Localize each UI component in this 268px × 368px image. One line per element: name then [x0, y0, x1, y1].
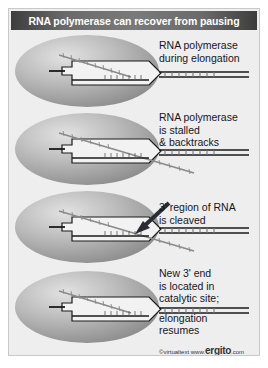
- credit-brand: ergito: [205, 345, 231, 356]
- caption-line: is cleaved: [159, 214, 236, 227]
- caption-line: is stalled: [159, 124, 238, 137]
- caption-line: resumes: [159, 324, 219, 337]
- enzyme-channel: [62, 297, 161, 321]
- caption-line: & backtracks: [159, 136, 238, 149]
- panel-elongation-caption: RNA polymerase during elongation: [159, 39, 240, 64]
- panel-stalled-caption: RNA polymerase is stalled & backtracks: [159, 111, 238, 149]
- dna-duplex-right: [159, 228, 249, 233]
- panel-cleaved: 3' region of RNA is cleaved: [9, 187, 260, 265]
- caption-spacer: [159, 305, 219, 312]
- credit-suffix: .com: [231, 349, 244, 355]
- caption-line: catalytic site;: [159, 292, 219, 305]
- caption-line: New 3' end: [159, 267, 219, 280]
- panel-resumed-diagram: [9, 265, 260, 355]
- figure-title: RNA polymerase can recover from pausing: [28, 15, 239, 27]
- caption-line: RNA polymerase: [159, 111, 238, 124]
- caption-line: RNA polymerase: [159, 39, 240, 52]
- panel-stalled: RNA polymerase is stalled & backtracks: [9, 109, 260, 187]
- panel-cleaved-caption: 3' region of RNA is cleaved: [159, 201, 236, 226]
- caption-line: is located in: [159, 280, 219, 293]
- figure-title-bar: RNA polymerase can recover from pausing: [11, 11, 257, 30]
- panel-elongation: RNA polymerase during elongation: [9, 31, 260, 109]
- panel-resumed-caption: New 3' end is located in catalytic site;…: [159, 267, 219, 337]
- enzyme-channel: [62, 61, 161, 85]
- credit-prefix: ©virtualtext www.: [159, 349, 205, 355]
- dna-duplex-right: [159, 150, 249, 155]
- copyright-credit: ©virtualtext www.ergito.com: [159, 345, 244, 356]
- dna-duplex-right: [159, 72, 249, 77]
- caption-line: elongation: [159, 312, 219, 325]
- panel-resumed: New 3' end is located in catalytic site;…: [9, 265, 260, 355]
- figure-panel: RNA polymerase can recover from pausing: [8, 8, 260, 356]
- caption-line: 3' region of RNA: [159, 201, 236, 214]
- caption-line: during elongation: [159, 52, 240, 65]
